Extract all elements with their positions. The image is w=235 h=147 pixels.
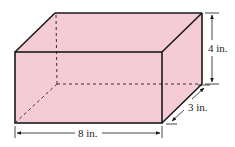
length-label: 8 in. [78,127,98,139]
prism-diagram: 4 in. 3 in. 8 in. [0,0,235,147]
front-face [15,52,162,123]
depth-label: 3 in. [188,101,208,113]
height-label: 4 in. [208,42,228,54]
